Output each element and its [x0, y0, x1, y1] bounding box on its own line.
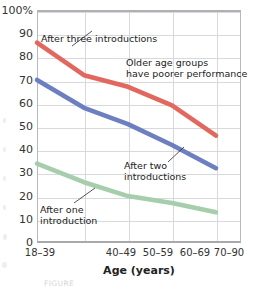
annotation-line: After two: [124, 160, 186, 171]
x-axis-tick-label: 70–90: [214, 247, 244, 258]
annotation-line: Older age groups: [126, 57, 247, 68]
x-axis-tick-label: 50–59: [143, 247, 173, 258]
y-axis-tick-label: 90: [0, 27, 33, 40]
gridline-horizontal: [38, 82, 240, 83]
x-axis-tick-label: 60–69: [180, 247, 210, 258]
y-axis-tick-label: 60: [0, 96, 33, 109]
annotation-two-introductions: After two introductions: [124, 160, 186, 182]
y-axis-tick-label: 30: [0, 166, 33, 179]
page-caption-fragment: FIGURE: [44, 279, 74, 286]
annotation-three-introductions: After three introductions: [41, 33, 157, 44]
figure-chart: 100% 90 80 70 60 50 40 30 20 10 0 18–39 …: [0, 0, 254, 286]
annotation-older-age-groups: Older age groups have poorer performance: [126, 57, 247, 79]
annotation-one-introduction: After one introduction: [40, 204, 97, 226]
x-axis-tick-label: 18–39: [25, 247, 55, 258]
annotation-line: have poorer performance: [126, 68, 247, 79]
gridline-horizontal: [38, 128, 240, 129]
page-bleed-artifact: [3, 205, 6, 210]
annotation-line: After one: [40, 204, 97, 215]
gridline-vertical: [129, 12, 130, 241]
x-axis-tick-label: 40–49: [106, 247, 136, 258]
y-axis-tick-label: 10: [0, 212, 33, 225]
y-axis-tick-label: 50: [0, 120, 33, 133]
gridline-horizontal: [38, 151, 240, 152]
annotation-line: After three introductions: [41, 33, 157, 44]
x-axis-title: Age (years): [103, 264, 175, 277]
gridline-vertical: [217, 12, 218, 241]
page-bleed-artifact: [2, 262, 7, 268]
gridline-horizontal: [38, 198, 240, 199]
annotation-line: introductions: [124, 171, 186, 182]
gridline-horizontal: [38, 105, 240, 106]
y-axis-tick-label: 80: [0, 50, 33, 63]
y-axis-tick-label: 20: [0, 189, 33, 202]
annotation-line: introduction: [40, 215, 97, 226]
y-axis-tick-label: 70: [0, 73, 33, 86]
gridline-horizontal: [38, 12, 240, 13]
gridline-vertical: [173, 12, 174, 241]
y-axis-tick-label: 40: [0, 143, 33, 156]
y-axis-tick-label: 100%: [0, 4, 33, 17]
